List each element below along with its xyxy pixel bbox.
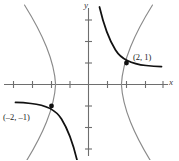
point-marker-2-1 <box>124 61 129 66</box>
y-axis-label: y <box>84 1 88 10</box>
point-label-neg2-neg1: (–2, –1) <box>3 113 30 122</box>
plot-canvas <box>0 0 179 160</box>
point-marker-neg2-neg1 <box>49 104 54 109</box>
light-branch-right-upper <box>121 5 152 85</box>
light-branch-right-lower <box>121 85 152 161</box>
hyperbola-figure: y x (2, 1) (–2, –1) <box>0 0 179 160</box>
axes-group <box>4 8 168 156</box>
light-branch-left-lower <box>25 85 56 161</box>
point-label-2-1: (2, 1) <box>133 53 151 62</box>
bold-branch-q1 <box>100 7 162 67</box>
x-axis-label: x <box>169 78 173 87</box>
light-branch-left-upper <box>25 5 56 85</box>
